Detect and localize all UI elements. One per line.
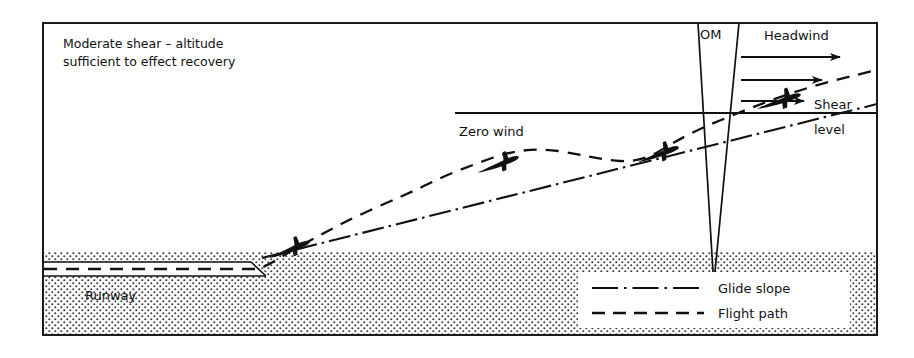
legend-label-flight-path: Flight path — [718, 306, 788, 321]
caption-line-1: Moderate shear – altitude — [63, 36, 224, 51]
legend-label-glide-slope: Glide slope — [718, 281, 790, 296]
shear-label-line-2: level — [814, 122, 845, 137]
caption-line-2: sufficient to effect recovery — [63, 54, 236, 69]
headwind-label: Headwind — [764, 28, 829, 43]
diagram-canvas: Glide slope Flight path Moderate shear –… — [0, 0, 914, 358]
zero-wind-label: Zero wind — [459, 124, 524, 139]
legend-panel: Glide slope Flight path — [578, 272, 850, 328]
legend-background — [578, 272, 850, 328]
om-label: OM — [700, 27, 721, 42]
runway-label: Runway — [85, 288, 137, 303]
windshear-diagram-svg: Glide slope Flight path Moderate shear –… — [0, 0, 914, 358]
shear-label-line-1: Shear — [814, 97, 852, 112]
